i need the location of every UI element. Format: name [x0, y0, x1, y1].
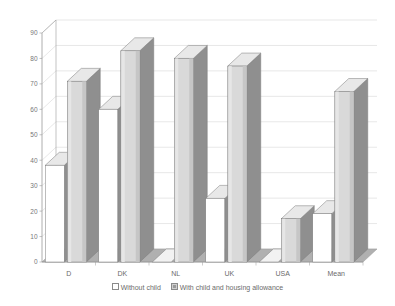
legend-item-without-child: Without child — [112, 283, 161, 291]
y-tick-label: 20 — [30, 208, 38, 215]
bar-d-series2 — [67, 68, 100, 262]
chart-legend: Without child With child and housing all… — [0, 283, 395, 291]
x-category-label: DK — [117, 270, 127, 277]
x-axis-category-labels: DDKNLUKUSAMean — [66, 262, 363, 277]
x-category-label: D — [66, 270, 71, 277]
x-category-label: Mean — [327, 270, 345, 277]
bars-group — [45, 38, 368, 262]
chart-canvas: 0102030405060708090 DDKNLUKUSAMean — [0, 0, 395, 306]
y-tick-label: 60 — [30, 106, 38, 113]
y-tick-label: 40 — [30, 157, 38, 164]
legend-item-with-child: With child and housing allowance — [171, 283, 284, 291]
legend-swatch-icon-without-child — [112, 283, 119, 290]
y-tick-label: 50 — [30, 131, 38, 138]
x-category-label: NL — [171, 270, 180, 277]
legend-swatch-icon-with-child — [171, 283, 178, 290]
bar-chart: 0102030405060708090 DDKNLUKUSAMean Witho… — [0, 0, 395, 306]
bar-dk-series2 — [121, 38, 154, 262]
y-tick-label: 0 — [34, 258, 38, 265]
bar-usa-series2 — [281, 206, 314, 262]
y-axis-tick-labels: 0102030405060708090 — [30, 29, 42, 265]
y-tick-label: 80 — [30, 55, 38, 62]
y-tick-label: 10 — [30, 233, 38, 240]
y-tick-label: 30 — [30, 182, 38, 189]
legend-label-without-child: Without child — [121, 284, 161, 291]
x-category-label: UK — [224, 270, 234, 277]
bar-uk-series2 — [228, 53, 261, 262]
bar-nl-series2 — [174, 45, 207, 262]
x-category-label: USA — [276, 270, 291, 277]
y-tick-label: 90 — [30, 29, 38, 36]
bar-mean-series2 — [335, 79, 368, 262]
y-tick-label: 70 — [30, 80, 38, 87]
legend-label-with-child: With child and housing allowance — [180, 284, 284, 291]
